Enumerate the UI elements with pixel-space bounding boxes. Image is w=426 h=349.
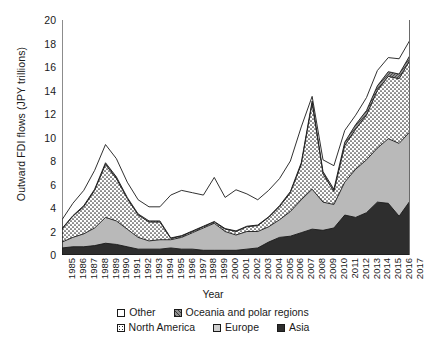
- x-axis-label: Year: [0, 288, 426, 300]
- legend-swatch-icon: [277, 324, 285, 332]
- legend-label: North America: [129, 320, 196, 335]
- x-tick-1995: 1995: [175, 258, 186, 279]
- y-tick-2: 2: [50, 226, 56, 238]
- x-tick-1996: 1996: [186, 258, 197, 279]
- x-tick-1990: 1990: [120, 258, 131, 279]
- x-tick-1992: 1992: [142, 258, 153, 279]
- x-tick-2004: 2004: [273, 258, 284, 279]
- x-tick-2013: 2013: [371, 258, 382, 279]
- legend-item-asia[interactable]: Asia: [277, 320, 309, 335]
- legend-swatch-icon: [117, 324, 125, 332]
- x-tick-1994: 1994: [164, 258, 175, 279]
- x-tick-2000: 2000: [229, 258, 240, 279]
- y-axis-tick-labels: 02468101214161820: [0, 0, 56, 275]
- y-tick-8: 8: [50, 155, 56, 167]
- chart-figure: Outward FDI flows (JPY trillions) 024681…: [0, 0, 426, 349]
- legend-label: Oceania and polar regions: [186, 305, 309, 320]
- legend-label: Europe: [225, 320, 259, 335]
- plot-area: [62, 20, 410, 255]
- x-tick-2015: 2015: [392, 258, 403, 279]
- x-tick-2012: 2012: [360, 258, 371, 279]
- y-tick-0: 0: [50, 249, 56, 261]
- y-tick-10: 10: [44, 132, 56, 144]
- x-tick-1991: 1991: [131, 258, 142, 279]
- y-tick-12: 12: [44, 108, 56, 120]
- y-tick-6: 6: [50, 179, 56, 191]
- x-tick-2006: 2006: [294, 258, 305, 279]
- x-tick-1986: 1986: [77, 258, 88, 279]
- x-tick-1988: 1988: [99, 258, 110, 279]
- y-tick-16: 16: [44, 61, 56, 73]
- x-tick-2010: 2010: [338, 258, 349, 279]
- x-tick-2016: 2016: [403, 258, 414, 279]
- x-tick-2009: 2009: [327, 258, 338, 279]
- legend-item-europe[interactable]: Europe: [213, 320, 259, 335]
- stacked-area-plot: [62, 20, 410, 255]
- y-tick-14: 14: [44, 85, 56, 97]
- x-tick-2005: 2005: [284, 258, 295, 279]
- y-tick-20: 20: [44, 14, 56, 26]
- x-tick-2017: 2017: [414, 258, 425, 279]
- x-tick-1985: 1985: [66, 258, 77, 279]
- x-tick-2002: 2002: [251, 258, 262, 279]
- x-tick-2014: 2014: [381, 258, 392, 279]
- legend-item-oceania-and-polar-regions[interactable]: Oceania and polar regions: [174, 305, 309, 320]
- legend-label: Asia: [289, 320, 309, 335]
- x-tick-2003: 2003: [262, 258, 273, 279]
- legend-item-north-america[interactable]: North America: [117, 320, 196, 335]
- x-tick-1999: 1999: [218, 258, 229, 279]
- legend-swatch-icon: [174, 309, 182, 317]
- legend-row-2: North AmericaEuropeAsia: [0, 320, 426, 335]
- chart-legend: OtherOceania and polar regions North Ame…: [0, 305, 426, 335]
- x-tick-2001: 2001: [240, 258, 251, 279]
- legend-row-1: OtherOceania and polar regions: [0, 305, 426, 320]
- x-tick-2007: 2007: [305, 258, 316, 279]
- legend-label: Other: [129, 305, 155, 320]
- x-tick-1989: 1989: [110, 258, 121, 279]
- legend-swatch-icon: [213, 324, 221, 332]
- x-tick-1998: 1998: [207, 258, 218, 279]
- x-tick-2008: 2008: [316, 258, 327, 279]
- legend-item-other[interactable]: Other: [117, 305, 155, 320]
- y-tick-18: 18: [44, 38, 56, 50]
- y-tick-4: 4: [50, 202, 56, 214]
- x-tick-2011: 2011: [349, 258, 360, 278]
- x-tick-1993: 1993: [153, 258, 164, 279]
- x-tick-1987: 1987: [88, 258, 99, 279]
- legend-swatch-icon: [117, 309, 125, 317]
- x-tick-1997: 1997: [197, 258, 208, 279]
